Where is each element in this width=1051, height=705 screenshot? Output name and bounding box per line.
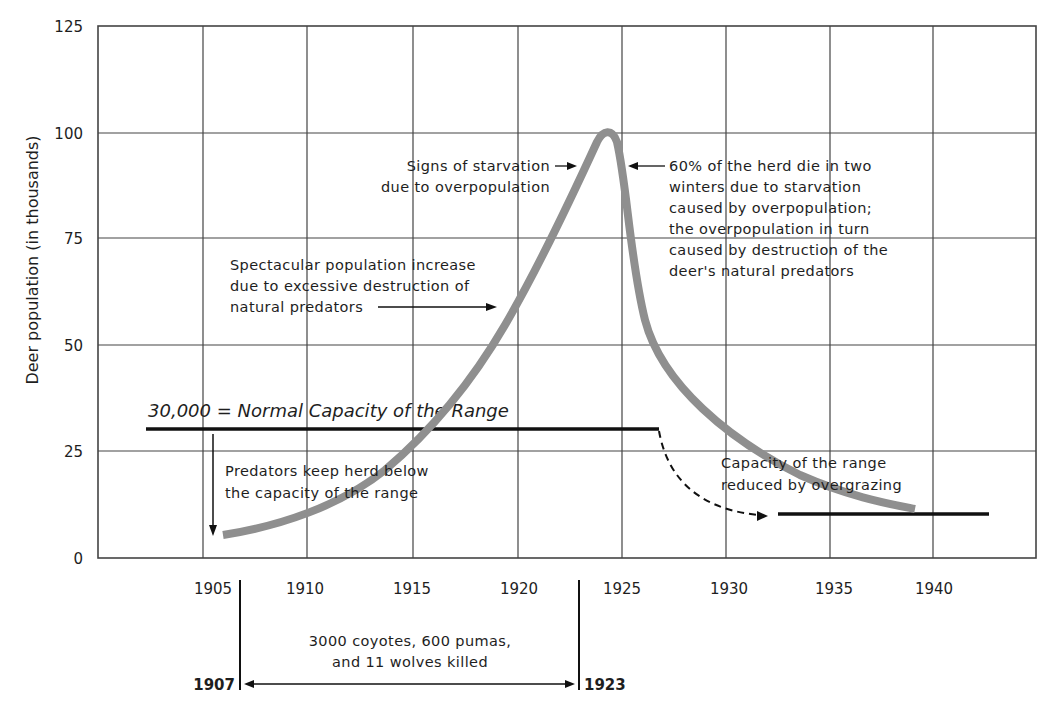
y-axis-label: Deer population (in thousands): [23, 135, 42, 384]
period-start-label: 1907: [193, 676, 235, 694]
die-off-annotation-line3: caused by overpopulation;: [669, 200, 872, 216]
arrowhead-icon: [244, 680, 254, 688]
arrowhead-icon: [628, 162, 638, 170]
x-tick: 1920: [500, 580, 538, 598]
y-tick: 50: [64, 337, 83, 355]
die-off-annotation-line6: deer's natural predators: [669, 263, 854, 279]
overgrazing-annotation-line2: reduced by overgrazing: [721, 477, 902, 493]
y-tick: 100: [54, 125, 83, 143]
x-tick: 1930: [710, 580, 748, 598]
x-tick: 1915: [393, 580, 431, 598]
die-off-annotation-line5: caused by destruction of the: [669, 242, 888, 258]
starvation-annotation-line2: due to overpopulation: [381, 179, 550, 195]
x-tick: 1905: [194, 580, 232, 598]
deer-population-chart: 125 100 75 50 25 0 Deer population (in t…: [0, 0, 1051, 705]
x-tick: 1925: [603, 580, 641, 598]
kill-count-line2: and 11 wolves killed: [332, 654, 488, 670]
y-tick: 75: [64, 230, 83, 248]
predators-annotation-line1: Predators keep herd below: [225, 463, 429, 479]
period-end-label: 1923: [584, 676, 626, 694]
arrowhead-icon: [486, 303, 497, 311]
y-tick: 125: [54, 18, 83, 36]
x-tick: 1910: [286, 580, 324, 598]
arrowhead-icon: [565, 680, 575, 688]
die-off-annotation-line4: the overpopulation in turn: [669, 221, 870, 237]
x-tick: 1940: [915, 580, 953, 598]
overgrazing-annotation-line1: Capacity of the range: [721, 455, 887, 471]
y-axis-ticks: 125 100 75 50 25 0: [54, 18, 83, 568]
increase-annotation-line2: due to excessive destruction of: [230, 278, 470, 294]
y-tick: 0: [73, 550, 83, 568]
kill-count-line1: 3000 coyotes, 600 pumas,: [309, 633, 512, 649]
arrowhead-icon: [209, 525, 217, 536]
die-off-annotation-line1: 60% of the herd die in two: [669, 158, 872, 174]
y-tick: 25: [64, 443, 83, 461]
starvation-annotation-line1: Signs of starvation: [407, 158, 550, 174]
increase-annotation-line3: natural predators: [230, 299, 363, 315]
predators-annotation-line2: the capacity of the range: [225, 485, 418, 501]
die-off-annotation-line2: winters due to starvation: [669, 179, 861, 195]
arrowhead-icon: [567, 162, 577, 170]
x-tick: 1935: [815, 580, 853, 598]
increase-annotation-line1: Spectacular population increase: [230, 257, 476, 273]
x-axis-ticks: 1905 1910 1915 1920 1925 1930 1935 1940: [194, 580, 953, 598]
arrowhead-icon: [757, 511, 768, 521]
